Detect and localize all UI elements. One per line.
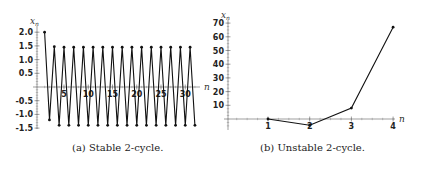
y-tick-label: -0.5 xyxy=(16,97,34,106)
x-tick-label: 3 xyxy=(349,122,355,131)
data-point xyxy=(87,124,90,127)
y-axis-label: xn xyxy=(221,10,230,21)
data-point xyxy=(150,46,153,49)
x-axis-label: n xyxy=(204,82,210,92)
y-tick-label: 30 xyxy=(213,74,225,83)
data-point xyxy=(77,124,80,127)
data-point xyxy=(308,124,311,127)
y-tick-label: 70 xyxy=(213,19,225,28)
y-tick-label: -1.0 xyxy=(16,110,34,119)
caption-b: (b) Unstable 2-cycle. xyxy=(260,142,365,153)
data-point xyxy=(126,124,129,127)
x-tick-label: 30 xyxy=(180,90,192,99)
data-point xyxy=(189,46,192,49)
y-tick-label: 10 xyxy=(213,101,225,110)
data-point xyxy=(350,107,353,110)
data-point xyxy=(116,124,119,127)
data-point xyxy=(72,46,75,49)
y-tick-label: 20 xyxy=(213,88,225,97)
data-point xyxy=(184,124,187,127)
y-tick-label: 0.5 xyxy=(19,69,34,78)
data-point xyxy=(48,118,51,121)
data-point xyxy=(194,124,197,127)
figure: 510152025302.01.51.00.5-0.5-1.0-1.5nxn 1… xyxy=(0,0,432,175)
data-point xyxy=(101,46,104,49)
data-point xyxy=(267,118,270,121)
chart-unstable-2-cycle: 123410203040506070nxn xyxy=(213,10,405,131)
x-tick-label: 25 xyxy=(155,90,167,99)
y-axis-label: xn xyxy=(30,16,39,27)
x-tick-label: 1 xyxy=(265,122,271,131)
data-point xyxy=(179,46,182,49)
x-tick-label: 20 xyxy=(131,90,143,99)
data-point xyxy=(164,124,167,127)
y-tick-label: 1.5 xyxy=(19,42,34,51)
data-point xyxy=(53,45,56,48)
caption-a: (a) Stable 2-cycle. xyxy=(72,142,163,153)
data-point xyxy=(145,124,148,127)
data-point xyxy=(155,124,158,127)
data-point xyxy=(131,46,134,49)
data-point xyxy=(174,124,177,127)
x-tick-label: 4 xyxy=(390,122,396,131)
data-line xyxy=(45,32,195,125)
y-tick-label: 50 xyxy=(213,47,225,56)
data-point xyxy=(43,31,46,34)
x-tick-label: 10 xyxy=(83,90,95,99)
data-point xyxy=(169,46,172,49)
x-tick-label: 15 xyxy=(107,90,119,99)
data-point xyxy=(92,46,95,49)
data-point xyxy=(160,46,163,49)
data-line xyxy=(268,27,393,125)
y-tick-label: 40 xyxy=(213,60,225,69)
data-point xyxy=(58,124,61,127)
y-tick-label: 2.0 xyxy=(19,28,34,37)
data-point xyxy=(63,46,66,49)
data-point xyxy=(111,46,114,49)
data-point xyxy=(140,46,143,49)
data-point xyxy=(97,124,100,127)
y-tick-label: -1.5 xyxy=(16,124,34,133)
y-tick-label: 1.0 xyxy=(19,56,34,65)
data-point xyxy=(392,26,395,29)
data-point xyxy=(82,46,85,49)
data-point xyxy=(67,124,70,127)
data-point xyxy=(135,124,138,127)
chart-stable-2-cycle: 510152025302.01.51.00.5-0.5-1.0-1.5nxn xyxy=(16,16,211,133)
x-axis-label: n xyxy=(399,114,405,124)
data-point xyxy=(121,46,124,49)
y-tick-label: 60 xyxy=(213,33,225,42)
data-point xyxy=(106,124,109,127)
